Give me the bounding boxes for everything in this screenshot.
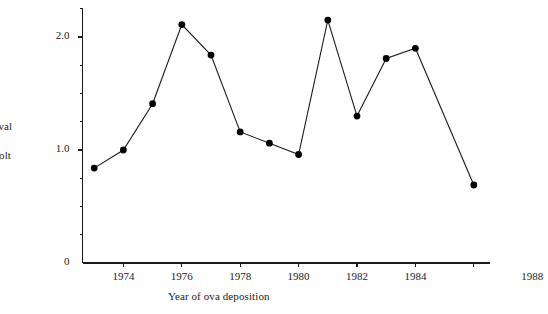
- data-point-marker: 1981: 2.15: [324, 17, 331, 24]
- x-axis-label: Year of ova deposition: [168, 290, 270, 302]
- data-point-marker: 1976: 2.11: [178, 21, 185, 28]
- y-axis-label-line-2: smolt: [0, 150, 11, 161]
- x-tick-label: 1988: [512, 270, 548, 282]
- data-point-marker: 1977: 1.84: [208, 52, 215, 59]
- x-tick-label: 1976: [162, 270, 202, 282]
- data-point-marker: 1984: 1.9: [412, 45, 419, 52]
- data-point-marker: 1973: 0.84: [91, 165, 98, 172]
- y-tick-label: 2.0: [40, 29, 70, 41]
- data-point-marker: 1983: 1.81: [383, 55, 390, 62]
- data-point-marker: 1982: 1.3: [354, 113, 361, 120]
- data-point-marker: 1979: 1.06: [266, 140, 273, 147]
- data-point-marker: 1980: 0.96: [295, 151, 302, 158]
- y-tick-label: 1.0: [40, 142, 70, 154]
- data-point-marker: 1978: 1.16: [237, 129, 244, 136]
- x-tick-label: 1982: [337, 270, 377, 282]
- y-axis-label-line-1: rvival: [0, 121, 12, 132]
- chart-series-survival: 1973: 0.841974: 11975: 1.411976: 2.11197…: [91, 17, 477, 189]
- data-point-marker: 1986: 0.69: [470, 182, 477, 189]
- y-tick-label: 0: [40, 255, 70, 267]
- x-tick-label: 1980: [279, 270, 319, 282]
- chart-axes: [78, 9, 491, 267]
- x-tick-label: 1984: [395, 270, 435, 282]
- data-point-marker: 1975: 1.41: [149, 100, 156, 107]
- x-tick-label: 1974: [103, 270, 143, 282]
- data-point-marker: 1974: 1: [120, 147, 127, 154]
- x-tick-label: 1978: [220, 270, 260, 282]
